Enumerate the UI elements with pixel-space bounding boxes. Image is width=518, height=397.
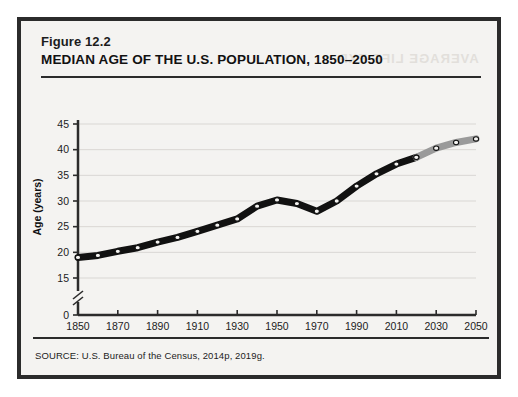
y-tick-label: 25 (57, 220, 69, 232)
data-point-marker (334, 199, 339, 203)
figure-title: MEDIAN AGE OF THE U.S. POPULATION, 1850–… (41, 52, 383, 67)
y-axis-title: Age (years) (31, 178, 43, 235)
x-tick-label: 1930 (226, 320, 250, 332)
data-point-marker (473, 137, 478, 141)
data-point-marker (434, 146, 439, 150)
data-point-marker (95, 253, 100, 257)
data-point-marker (454, 140, 459, 144)
x-tick-label: 1870 (106, 320, 130, 332)
x-tick-label: 1990 (345, 320, 369, 332)
x-tick-label: 2050 (464, 320, 488, 332)
data-point-marker (294, 201, 299, 205)
data-point-marker (115, 249, 120, 253)
data-point-marker (215, 223, 220, 227)
y-tick-label: 40 (57, 143, 69, 155)
x-tick-label: 1970 (305, 320, 329, 332)
y-tick-label: 15 (57, 272, 69, 284)
y-tick-labels: 015202530354045 (57, 118, 69, 321)
data-point-marker (394, 162, 399, 166)
figure-frame: AVERAGE LIFE EXP Figure 12.2 MEDIAN AGE … (17, 17, 501, 379)
source-divider (33, 337, 489, 339)
data-point-marker (175, 235, 180, 239)
data-point-marker (75, 255, 80, 259)
chart-plot-area: 015202530354045 185018701890191019301950… (21, 83, 497, 333)
data-point-marker (235, 217, 240, 221)
data-point-markers (75, 137, 478, 260)
median-age-line-chart: 015202530354045 185018701890191019301950… (21, 83, 497, 333)
x-tick-label: 1910 (186, 320, 210, 332)
data-point-marker (135, 246, 140, 250)
x-tick-label: 2030 (425, 320, 449, 332)
y-tick-label: 20 (57, 246, 69, 258)
figure-number: Figure 12.2 (41, 34, 111, 49)
y-tick-label: 45 (57, 118, 69, 130)
x-tick-label: 1890 (146, 320, 170, 332)
data-point-marker (354, 184, 359, 188)
y-tick-label: 30 (57, 195, 69, 207)
data-point-marker (155, 240, 160, 244)
data-point-marker (274, 198, 279, 202)
data-point-marker (374, 172, 379, 176)
data-point-marker (314, 209, 319, 213)
y-tick-label: 35 (57, 169, 69, 181)
x-tick-label: 1950 (265, 320, 289, 332)
x-tick-labels: 1850187018901910193019501970199020102030… (66, 320, 488, 332)
data-point-marker (414, 155, 419, 159)
y-tick-label: 0 (63, 309, 69, 321)
x-tick-label: 2010 (385, 320, 409, 332)
title-divider (41, 76, 481, 78)
data-point-marker (255, 204, 260, 208)
source-note: SOURCE: U.S. Bureau of the Census, 2014p… (35, 350, 265, 361)
x-tick-label: 1850 (66, 320, 90, 332)
data-point-marker (195, 229, 200, 233)
